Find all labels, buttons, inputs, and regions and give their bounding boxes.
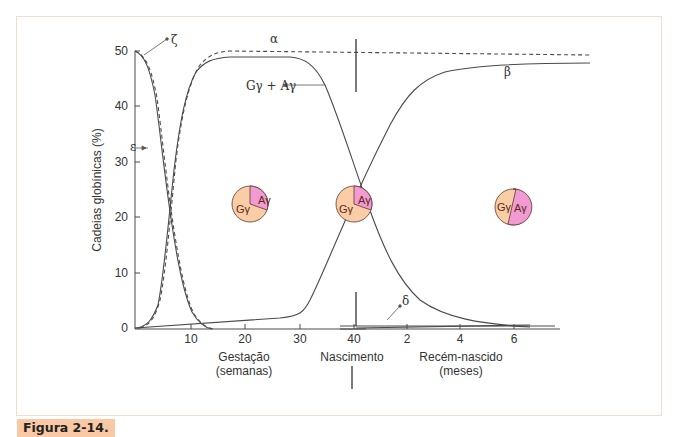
pie-chart-fetal: Aγ Gγ xyxy=(232,186,271,222)
y-tick-10: 10 xyxy=(115,266,129,280)
y-tick-20: 20 xyxy=(115,210,129,224)
newborn-unit: (meses) xyxy=(439,364,482,378)
globin-chains-chart: 50 40 30 20 10 0 Cadeias globínicas (%) … xyxy=(0,0,683,437)
pie1-a-gamma: Aγ xyxy=(258,194,271,206)
pie3-g-gamma: Gγ xyxy=(497,201,512,213)
figure-caption: Figura 2-14. xyxy=(17,419,115,437)
gamma-label: Gγ + Aγ xyxy=(246,79,296,93)
pie2-a-gamma: Aγ xyxy=(358,194,371,206)
x-tick-30: 30 xyxy=(293,332,307,346)
x-tick-2m: 2 xyxy=(404,332,411,346)
x-tick-6m: 6 xyxy=(511,332,518,346)
y-tick-30: 30 xyxy=(115,155,129,169)
beta-label: β xyxy=(504,65,511,79)
birth-label: Nascimento xyxy=(320,350,384,364)
gamma-curve xyxy=(138,57,530,328)
pie-chart-birth: Aγ Gγ xyxy=(336,186,372,222)
gestation-unit: (semanas) xyxy=(216,364,273,378)
series-labels: ζ ε α Gγ + Aγ β δ xyxy=(130,32,511,308)
x-tick-4m: 4 xyxy=(457,332,464,346)
pie3-a-gamma: Aγ xyxy=(514,202,527,214)
epsilon-curve xyxy=(135,51,214,329)
y-tick-40: 40 xyxy=(115,99,129,113)
x-tick-labels: 10 20 30 40 2 4 6 xyxy=(184,332,517,346)
zeta-label: ζ xyxy=(171,33,178,47)
gestation-label: Gestação xyxy=(218,350,270,364)
y-axis xyxy=(135,51,140,329)
newborn-label: Recém-nascido xyxy=(419,350,503,364)
epsilon-label: ε xyxy=(130,140,136,154)
delta-label: δ xyxy=(402,294,409,308)
x-tick-40: 40 xyxy=(347,332,361,346)
pie1-g-gamma: Gγ xyxy=(236,203,251,215)
x-tick-20: 20 xyxy=(238,332,252,346)
x-axis-gestation xyxy=(135,324,366,329)
y-tick-labels: 50 40 30 20 10 0 xyxy=(115,44,129,335)
x-section-labels: Gestação (semanas) Nascimento Recém-nasc… xyxy=(216,350,503,378)
pie2-g-gamma: Gγ xyxy=(339,203,354,215)
y-tick-0: 0 xyxy=(121,321,128,335)
y-axis-title: Cadeias globínicas (%) xyxy=(90,128,104,251)
x-tick-10: 10 xyxy=(184,332,198,346)
alpha-label: α xyxy=(270,32,278,46)
y-tick-50: 50 xyxy=(115,44,129,58)
pie-chart-newborn: Gγ Aγ xyxy=(495,189,532,225)
